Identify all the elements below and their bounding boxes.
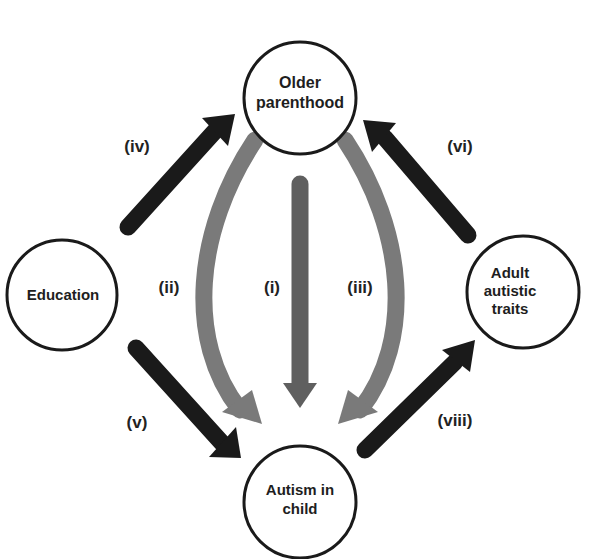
causal-diagram: Older parenthood Education Adult autisti… <box>0 0 590 559</box>
node-label: child <box>282 500 317 517</box>
node-label: autistic <box>484 282 537 299</box>
path-label-i: (i) <box>264 278 280 297</box>
path-label-viii: (viii) <box>438 411 473 430</box>
path-label-vi: (vi) <box>447 137 473 156</box>
arrow-path-ii <box>204 140 262 424</box>
node-education: Education <box>7 240 117 350</box>
node-label: Older <box>279 74 321 91</box>
node-label: traits <box>492 300 529 317</box>
path-label-iii: (iii) <box>347 278 373 297</box>
node-adult-autistic-traits: Adult autistic traits <box>467 236 579 348</box>
node-older-parenthood: Older parenthood <box>244 42 356 154</box>
node-label: Adult <box>491 264 529 281</box>
path-label-iv: (iv) <box>124 137 150 156</box>
node-autism-in-child: Autism in child <box>244 446 356 558</box>
node-label: Autism in <box>266 481 334 498</box>
node-label: Education <box>27 286 100 303</box>
path-label-ii: (ii) <box>159 278 180 297</box>
path-label-v: (v) <box>127 413 148 432</box>
node-label: parenthood <box>256 94 344 111</box>
arrow-path-i <box>283 184 317 408</box>
